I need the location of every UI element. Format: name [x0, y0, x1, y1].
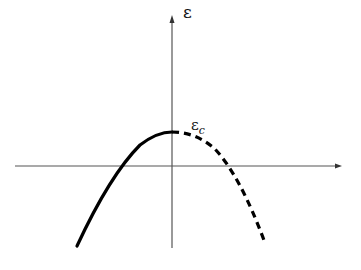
peak-label-main: ε	[191, 116, 199, 134]
curve-dashed-branch	[172, 132, 265, 243]
peak-label: εc	[191, 116, 205, 137]
diagram-canvas	[0, 0, 361, 270]
x-axis-arrow-icon	[335, 164, 342, 169]
curve-solid-branch	[77, 132, 172, 246]
y-axis-label: ε	[183, 2, 192, 22]
y-axis-arrow-icon	[170, 15, 175, 23]
peak-label-subscript: c	[199, 124, 205, 137]
